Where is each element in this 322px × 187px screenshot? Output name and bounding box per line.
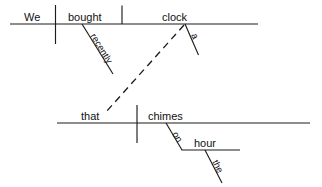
- diagram-canvas: We bought clock recently a that chimes o…: [0, 0, 322, 187]
- label-object-clock: clock: [162, 11, 188, 23]
- label-relative-pronoun-that: that: [81, 110, 99, 122]
- label-relative-verb-chimes: chimes: [148, 110, 183, 122]
- label-article-the: the: [210, 158, 226, 175]
- label-subject-we: We: [24, 11, 40, 23]
- sentence-diagram: We bought clock recently a that chimes o…: [0, 0, 322, 187]
- label-article-a: a: [189, 31, 201, 41]
- label-adverb-recently: recently: [88, 31, 115, 65]
- label-preposition-on: on: [170, 130, 185, 145]
- relative-clause-connector-dashed: [106, 25, 184, 112]
- label-verb-bought: bought: [68, 11, 102, 23]
- label-prep-object-hour: hour: [194, 137, 216, 149]
